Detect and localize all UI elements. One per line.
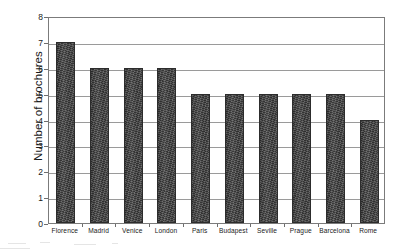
y-axis-tick-label: 8 (27, 12, 43, 22)
gridline (49, 44, 384, 45)
x-axis-tick-mark (351, 224, 352, 227)
bar (56, 42, 75, 223)
y-axis-tick-label: 1 (27, 193, 43, 203)
bar (191, 94, 210, 223)
x-axis-tick-mark (115, 224, 116, 227)
y-axis-tick-label: 7 (27, 38, 43, 48)
x-axis-tick-label: Seville (257, 227, 277, 234)
bar (124, 68, 143, 223)
y-axis-tick-label: 6 (27, 64, 43, 74)
x-axis-tick-mark (149, 224, 150, 227)
y-axis-tick-mark (44, 224, 48, 225)
y-axis-tick-label: 4 (27, 116, 43, 126)
plot-area (48, 17, 385, 224)
x-axis-tick-label: Barcelona (319, 227, 350, 234)
x-axis-tick-label: Budapest (219, 227, 248, 234)
y-axis-tick-label: 2 (27, 167, 43, 177)
bar (360, 120, 379, 224)
bar (90, 68, 109, 223)
bar (225, 94, 244, 223)
bar (292, 94, 311, 223)
x-axis-tick-label: Prague (290, 227, 312, 234)
y-axis-tick-label: 5 (27, 90, 43, 100)
x-axis-tick-mark (250, 224, 251, 227)
x-axis-tick-mark (284, 224, 285, 227)
bar (157, 68, 176, 223)
bar-chart: Number of brochures 012345678 FlorenceMa… (0, 0, 400, 252)
x-axis-tick-mark (217, 224, 218, 227)
x-axis-tick-mark (82, 224, 83, 227)
x-axis-tick-label: London (155, 227, 178, 234)
x-axis-tick-label: Florence (52, 227, 78, 234)
x-axis-tick-label: Venice (122, 227, 142, 234)
x-axis-tick-label: Paris (192, 227, 208, 234)
bar (326, 94, 345, 223)
y-axis-tick-label: 3 (27, 141, 43, 151)
x-axis-tick-label: Rome (359, 227, 377, 234)
x-axis-tick-mark (183, 224, 184, 227)
x-axis-tick-label: Madrid (88, 227, 109, 234)
y-axis-tick-label: 0 (27, 219, 43, 229)
bar (259, 94, 278, 223)
